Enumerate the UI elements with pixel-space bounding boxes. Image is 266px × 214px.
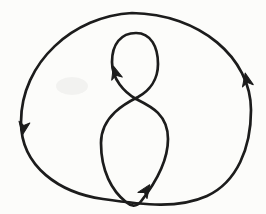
paper-smudge (56, 77, 88, 95)
curve-diagram-svg (0, 0, 266, 214)
outer-ellipse-curve (21, 13, 251, 205)
arrowhead-outer-ellipse-left-down (17, 121, 30, 136)
figure-eight-curve (101, 33, 168, 206)
curve-diagram (0, 0, 266, 214)
arrowhead-outer-ellipse-left-down-glyph (17, 121, 30, 136)
